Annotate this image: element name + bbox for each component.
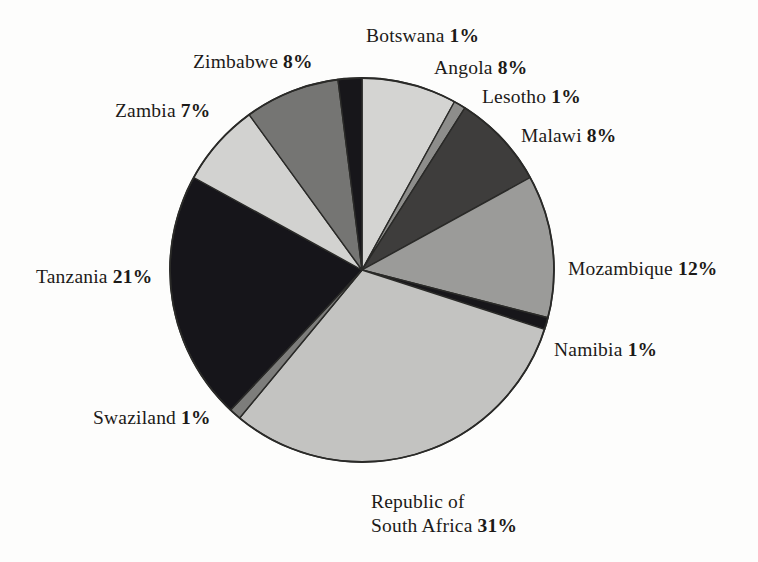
slice-label-lesotho: Lesotho 1% (482, 85, 581, 109)
slice-label-namibia-name: Namibia (554, 339, 623, 360)
slice-label-botswana: Botswana 1% (366, 24, 479, 48)
slice-label-malawi-pct: 8% (587, 125, 617, 146)
slice-label-malawi: Malawi 8% (521, 124, 617, 148)
slice-label-zimbabwe: Zimbabwe 8% (193, 50, 313, 74)
slice-label-swaziland-name: Swaziland (93, 407, 176, 428)
slice-label-swaziland-pct: 1% (181, 407, 211, 428)
slice-label-zambia: Zambia 7% (115, 99, 211, 123)
slice-label-tanzania-name: Tanzania (36, 266, 108, 287)
slice-label-zimbabwe-name: Zimbabwe (193, 51, 278, 72)
slice-label-tanzania-pct: 21% (113, 266, 153, 287)
slice-label-mozambique: Mozambique 12% (568, 257, 718, 281)
slice-label-lesotho-pct: 1% (551, 86, 581, 107)
slice-label-zimbabwe-pct: 8% (283, 51, 313, 72)
slice-label-south-africa-pct: 31% (478, 515, 518, 536)
slice-label-south-africa-line1: Republic of (371, 491, 465, 512)
slice-label-angola: Angola 8% (434, 56, 527, 80)
slice-label-south-africa-line2: South Africa (371, 515, 473, 536)
slice-label-lesotho-name: Lesotho (482, 86, 546, 107)
slice-label-malawi-name: Malawi (521, 125, 582, 146)
slice-label-angola-pct: 8% (498, 57, 528, 78)
slice-label-south-africa: Republic of South Africa 31% (371, 490, 517, 539)
slice-label-botswana-pct: 1% (450, 25, 480, 46)
slice-label-namibia: Namibia 1% (554, 338, 657, 362)
slice-label-swaziland: Swaziland 1% (93, 406, 211, 430)
slice-label-botswana-name: Botswana (366, 25, 445, 46)
slice-label-namibia-pct: 1% (628, 339, 658, 360)
slice-label-tanzania: Tanzania 21% (36, 265, 152, 289)
slice-label-angola-name: Angola (434, 57, 493, 78)
slice-label-mozambique-pct: 12% (678, 258, 718, 279)
slice-label-zambia-pct: 7% (181, 100, 211, 121)
slice-label-zambia-name: Zambia (115, 100, 176, 121)
pie-chart-figure: Botswana 1% Angola 8% Lesotho 1% Malawi … (0, 0, 758, 562)
slice-label-mozambique-name: Mozambique (568, 258, 673, 279)
